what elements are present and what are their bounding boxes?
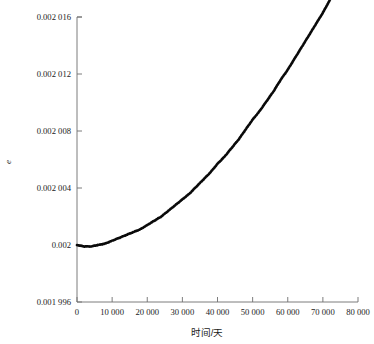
x-axis-title: 时间/天 xyxy=(191,327,224,338)
y-tick-label: 0.002 008 xyxy=(37,126,71,136)
chart-figure: 0.001 9960.0020.002 0040.002 0080.002 01… xyxy=(0,0,374,344)
x-tick-label: 0 xyxy=(75,307,79,317)
y-tick-label: 0.002 xyxy=(52,240,71,250)
y-tick-label: 0.002 016 xyxy=(37,12,72,22)
y-tick-label: 0.001 996 xyxy=(37,297,72,307)
x-tick-label: 40 000 xyxy=(206,307,230,317)
x-tick-label: 60 000 xyxy=(276,307,300,317)
y-tick-label: 0.002 012 xyxy=(37,69,71,79)
y-tick-label: 0.002 004 xyxy=(37,183,72,193)
x-tick-label: 80 000 xyxy=(346,307,370,317)
x-tick-label: 30 000 xyxy=(171,307,195,317)
x-axis-tick-labels: 010 00020 00030 00040 00050 00060 00070 … xyxy=(75,307,370,317)
x-tick-label: 70 000 xyxy=(311,307,335,317)
line-chart: 0.001 9960.0020.002 0040.002 0080.002 01… xyxy=(0,0,374,344)
x-tick-label: 50 000 xyxy=(241,307,265,317)
chart-background xyxy=(0,0,374,344)
x-tick-label: 20 000 xyxy=(135,307,159,317)
y-axis-title: e xyxy=(3,160,13,164)
x-tick-label: 10 000 xyxy=(100,307,124,317)
